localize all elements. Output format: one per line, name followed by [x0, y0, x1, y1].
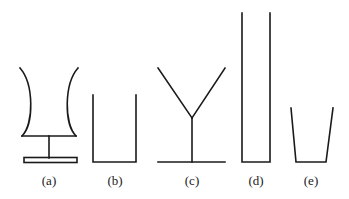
label-e: (e) — [304, 173, 318, 188]
vessel-d — [242, 13, 270, 162]
vessel-b — [93, 95, 136, 162]
vessel-c — [158, 68, 225, 162]
vessel-e — [291, 108, 333, 162]
label-c: (c) — [185, 173, 199, 188]
vessels-diagram: (a) (b) (c) (d) (e) — [0, 0, 349, 199]
vessel-a — [20, 68, 78, 163]
label-b: (b) — [107, 173, 122, 188]
label-d: (d) — [248, 173, 263, 188]
label-a: (a) — [42, 173, 56, 188]
